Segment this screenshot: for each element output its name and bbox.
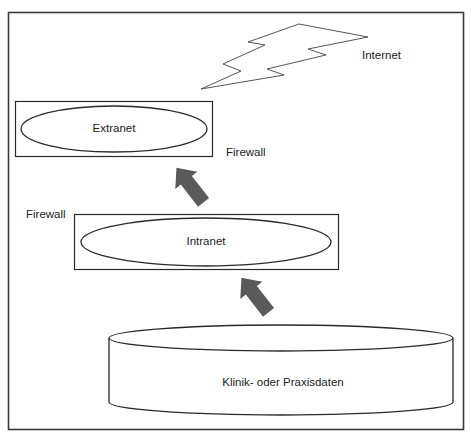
internet-label: Internet: [362, 50, 401, 62]
database-cylinder-icon: [109, 325, 453, 415]
extranet-label: Extranet: [93, 123, 136, 135]
network-security-diagram: [0, 0, 471, 436]
upper-firewall-label: Firewall: [226, 147, 266, 159]
database-label: Klinik- oder Praxisdaten: [222, 377, 343, 389]
arrow-database-to-intranet-icon: [230, 269, 279, 321]
arrow-intranet-to-extranet-icon: [165, 159, 214, 211]
internet-lightning-icon: [201, 24, 368, 89]
intranet-label: Intranet: [187, 236, 226, 248]
lower-firewall-label: Firewall: [26, 209, 66, 221]
